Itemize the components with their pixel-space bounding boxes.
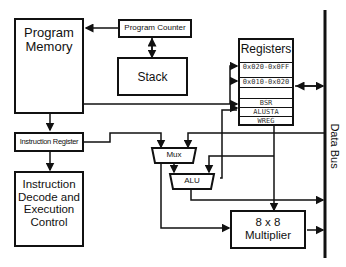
alu-label: ALU	[170, 177, 214, 186]
registers-label: Registers	[240, 43, 292, 56]
register-row-wreg: WREG	[240, 116, 292, 126]
instruction-decode-block: Instruction Decode and Execution Control	[14, 171, 84, 247]
stack-block: Stack	[117, 57, 188, 96]
register-row-blank	[240, 87, 292, 97]
program-memory-block: Program Memory	[14, 18, 84, 114]
program-memory-label: Program Memory	[16, 26, 82, 55]
mux-label: Mux	[152, 151, 196, 160]
multiplier-label: 8 x 8 Multiplier	[232, 216, 304, 241]
instruction-register-block: Instruction Register	[14, 132, 84, 152]
instruction-register-label: Instruction Register	[16, 138, 82, 146]
program-counter-block: Program Counter	[118, 19, 192, 38]
registers-block: Registers 0x020-0x0FF 0x010-0x020 BSR AL…	[238, 38, 294, 126]
program-counter-label: Program Counter	[120, 24, 190, 33]
data-bus-label: Data Bus	[329, 111, 341, 181]
register-row-0x020-0x0ff: 0x020-0x0FF	[240, 62, 292, 72]
instruction-decode-label: Instruction Decode and Execution Control	[16, 178, 82, 229]
stack-label: Stack	[119, 71, 186, 84]
multiplier-block: 8 x 8 Multiplier	[230, 210, 306, 249]
register-row-0x010-0x020: 0x010-0x020	[240, 77, 292, 87]
